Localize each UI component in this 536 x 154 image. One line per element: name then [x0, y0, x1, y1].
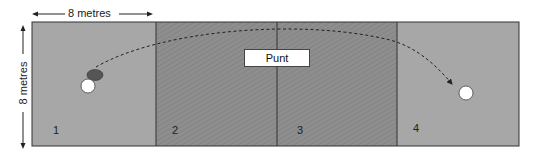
zone-4-number: 4 [413, 122, 419, 134]
ball-end-icon [459, 86, 473, 100]
arrowhead-down-icon [21, 143, 26, 149]
punt-label: Punt [244, 49, 310, 67]
zone-3 [277, 22, 397, 146]
ball-start-icon [81, 79, 95, 93]
arrowhead-left-icon [32, 12, 38, 17]
arrowhead-right-icon [147, 12, 153, 17]
vertical-dimension-label: 8 metres [17, 55, 29, 111]
field-diagram [0, 0, 536, 154]
zone-2-number: 2 [172, 124, 178, 136]
horizontal-dimension-label: 8 metres [68, 7, 111, 19]
zone-3-number: 3 [297, 124, 303, 136]
zone-1-number: 1 [53, 124, 59, 136]
arrowhead-up-icon [21, 25, 26, 31]
